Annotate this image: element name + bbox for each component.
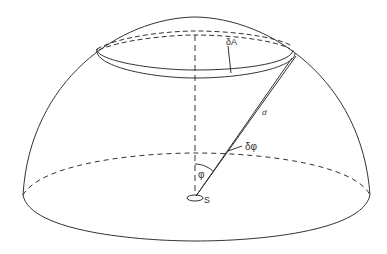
hemisphere-base-front — [23, 195, 370, 241]
label-distance: d — [262, 108, 267, 117]
label-source: S — [204, 195, 210, 205]
label-delta-phi: δφ — [245, 141, 258, 152]
hemisphere-diagram: δA d δφ φ S — [0, 0, 387, 254]
source-icon — [187, 195, 203, 201]
label-phi: φ — [198, 169, 205, 180]
hemisphere-base-back — [23, 153, 370, 195]
label-delta-a: δA — [226, 37, 237, 47]
ray-2 — [196, 56, 296, 196]
hemisphere-dome — [23, 17, 370, 195]
